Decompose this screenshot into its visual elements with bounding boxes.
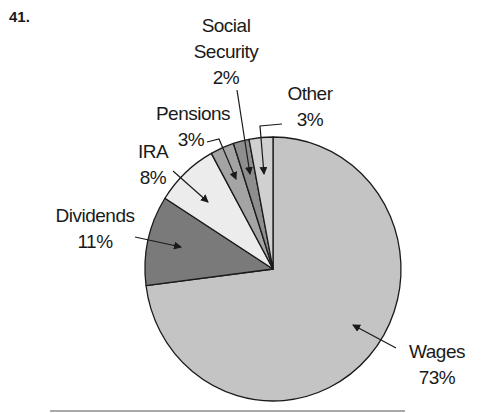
label-wages: Wages [409,341,465,362]
label-ira: IRA [138,141,169,162]
pie-chart: Wages 73% Dividends 11% IRA 8% Pensions … [0,0,483,413]
label-social-security-line2: Security [194,41,260,62]
label-dividends-pct: 11% [77,231,113,252]
label-social-security-pct: 2% [213,67,240,88]
label-social-security-line1: Social [202,15,251,36]
label-wages-pct: 73% [419,367,456,388]
label-other: Other [287,83,333,104]
label-pensions-pct: 3% [178,129,205,150]
label-ira-pct: 8% [140,167,167,188]
label-pensions: Pensions [156,103,230,124]
pie-slices [145,137,401,401]
label-other-pct: 3% [297,109,324,130]
label-dividends: Dividends [56,205,135,226]
